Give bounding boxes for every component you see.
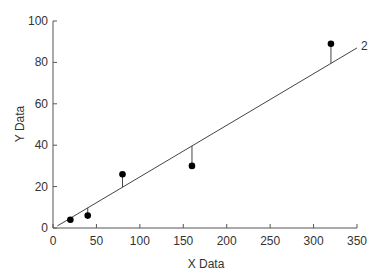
x-tick-label: 300 (304, 234, 324, 248)
y-tick-label: 60 (35, 97, 49, 111)
y-tick-label: 80 (35, 55, 49, 69)
regression-line (57, 48, 357, 226)
y-axis-label: Y Data (13, 105, 27, 142)
x-tick-label: 100 (130, 234, 150, 248)
x-tick-label: 350 (347, 234, 367, 248)
data-point (119, 171, 126, 178)
x-axis-label: X Data (188, 257, 225, 271)
scatter-chart: 020406080100050100150200250300350 X Data… (0, 0, 380, 274)
x-tick-label: 50 (90, 234, 104, 248)
x-tick-label: 250 (260, 234, 280, 248)
y-tick-label: 40 (35, 138, 49, 152)
y-tick-label: 0 (41, 221, 48, 235)
y-tick-label: 100 (28, 14, 48, 28)
fit-line-label: 2 (361, 39, 368, 53)
residual-lines (70, 44, 331, 220)
x-tick-label: 0 (50, 234, 57, 248)
x-tick-label: 150 (173, 234, 193, 248)
data-points (67, 40, 334, 223)
data-point (328, 40, 335, 47)
y-tick-label: 20 (35, 180, 49, 194)
data-point (189, 163, 196, 170)
data-point (67, 216, 74, 223)
fit-line (57, 48, 357, 226)
data-point (84, 212, 91, 219)
x-tick-label: 200 (217, 234, 237, 248)
